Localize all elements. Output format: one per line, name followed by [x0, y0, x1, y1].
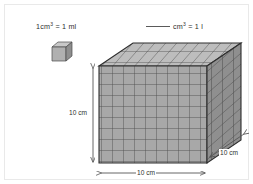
dimension-arrows	[5, 5, 250, 181]
worksheet-panel: 1cm3 = 1 ml cm3 = 1 l	[4, 4, 249, 180]
height-label: 10 cm	[68, 109, 88, 116]
width-label: 10 cm	[136, 169, 156, 176]
depth-label: 10 cm	[219, 149, 239, 156]
